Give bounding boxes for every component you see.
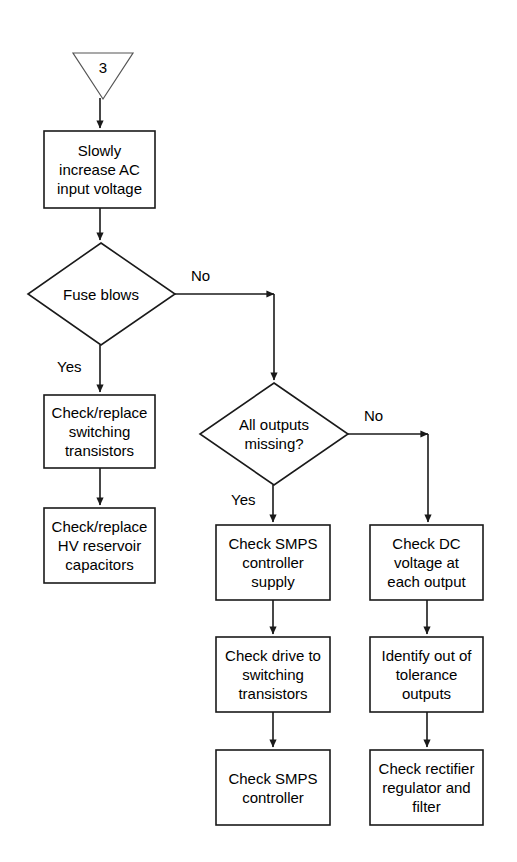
node-check-drive-to-switching-transistors[interactable] (216, 637, 330, 712)
node-check-smps-controller[interactable] (216, 750, 330, 825)
node-all-outputs-missing[interactable] (200, 383, 348, 485)
node-check-replace-hv-reservoir-capacitors[interactable] (44, 508, 155, 583)
node-check-rectifier-regulator-and-filter[interactable] (370, 750, 483, 825)
node-check-replace-switching-transistors[interactable] (44, 395, 155, 468)
flowchart-canvas: 3 Slowly increase AC input voltage Fuse … (0, 0, 517, 862)
node-identify-out-of-tolerance-outputs[interactable] (370, 637, 483, 712)
edge-label-fuse-blows-no: No (191, 267, 210, 284)
edge-label-all-outputs-yes: Yes (231, 491, 255, 508)
edge-label-all-outputs-no: No (364, 407, 383, 424)
off-page-connector-3[interactable] (73, 53, 133, 99)
node-check-dc-voltage-at-each-output[interactable] (370, 525, 483, 600)
node-fuse-blows[interactable] (28, 243, 175, 345)
node-slowly-increase-ac[interactable] (44, 131, 155, 208)
node-check-smps-controller-supply[interactable] (216, 525, 330, 600)
edge-label-fuse-blows-yes: Yes (57, 358, 81, 375)
